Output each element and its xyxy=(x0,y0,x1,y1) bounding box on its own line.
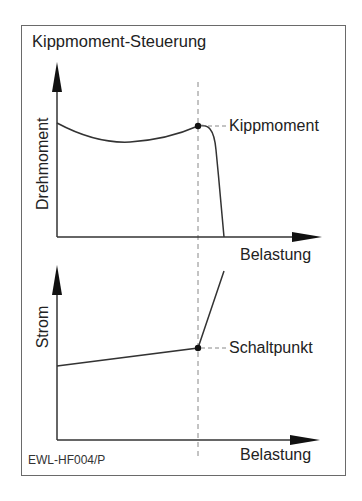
bottom-y-axis-arrow-icon xyxy=(52,265,62,295)
kippmoment-point xyxy=(195,123,201,129)
torque-curve xyxy=(57,123,224,237)
top-x-axis-arrow-icon xyxy=(292,232,322,242)
kippmoment-label: Kippmoment xyxy=(229,117,319,135)
top-x-label: Belastung xyxy=(240,246,311,264)
bottom-y-label: Strom xyxy=(34,297,52,357)
current-curve xyxy=(57,271,224,366)
bottom-x-label: Belastung xyxy=(240,446,311,464)
figure-code: EWL-HF004/P xyxy=(28,453,105,467)
top-y-axis-arrow-icon xyxy=(52,62,62,92)
schaltpunkt-point xyxy=(195,345,201,351)
top-y-label: Drehmoment xyxy=(34,118,52,210)
schaltpunkt-label: Schaltpunkt xyxy=(229,339,313,357)
bottom-x-axis-arrow-icon xyxy=(290,435,320,445)
